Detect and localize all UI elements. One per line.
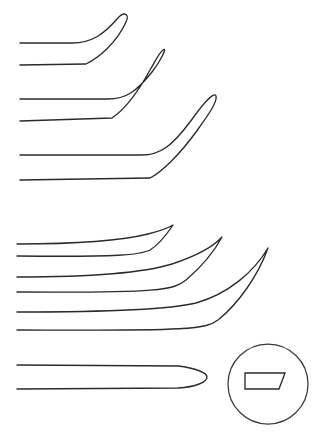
instrument-figure xyxy=(0,0,312,438)
figure-root xyxy=(0,0,312,438)
